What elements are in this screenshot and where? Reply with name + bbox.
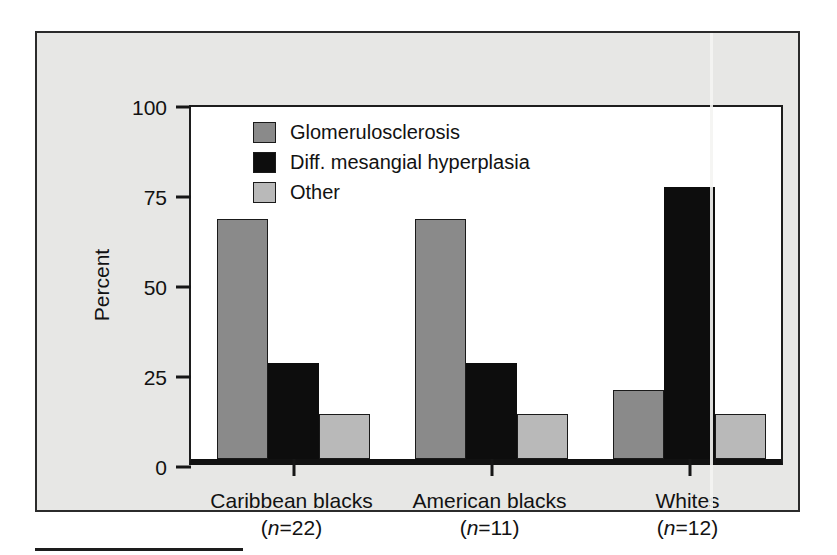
- y-axis-tick-mark: [176, 376, 191, 379]
- x-axis-tick-mark: [292, 459, 295, 476]
- bar: [517, 414, 568, 459]
- legend-item: Diff. mesangial hyperplasia: [253, 150, 530, 174]
- y-axis-title-label: Percent: [90, 249, 114, 321]
- y-axis-tick-mark: [176, 106, 191, 109]
- legend-label: Diff. mesangial hyperplasia: [290, 152, 530, 172]
- y-axis-tick: 25: [144, 367, 191, 388]
- legend-swatch: [253, 122, 276, 143]
- y-axis-tick-label: 75: [144, 187, 167, 208]
- bar: [664, 187, 715, 459]
- y-axis-tick: 50: [144, 277, 191, 298]
- bar: [319, 414, 370, 459]
- bar: [613, 390, 664, 459]
- y-axis-tick: 0: [155, 457, 191, 478]
- caption-rule: [35, 548, 243, 551]
- x-axis-group-name: Whites: [655, 489, 719, 512]
- legend-label: Glomerulosclerosis: [290, 122, 460, 142]
- legend-swatch: [253, 152, 276, 173]
- bar: [715, 414, 766, 459]
- figure-frame: Percent 0255075100 GlomerulosclerosisDif…: [35, 31, 800, 512]
- y-axis-tick: 75: [144, 187, 191, 208]
- chart-legend: GlomerulosclerosisDiff. mesangial hyperp…: [253, 120, 530, 210]
- y-axis-title: Percent: [89, 105, 115, 465]
- bar: [217, 219, 268, 459]
- x-axis-group-sample-size: (n=11): [412, 515, 566, 542]
- y-axis-tick-label: 0: [155, 457, 167, 478]
- plot-area: 0255075100 GlomerulosclerosisDiff. mesan…: [189, 105, 783, 465]
- bar: [415, 219, 466, 459]
- y-axis-tick-mark: [176, 196, 191, 199]
- legend-swatch: [253, 182, 276, 203]
- y-axis-tick-mark: [176, 286, 191, 289]
- x-axis-group-label: Whites(n=12): [655, 488, 719, 542]
- bar: [268, 363, 319, 459]
- x-axis-group-label: American blacks(n=11): [412, 488, 566, 542]
- x-axis-group-sample-size: (n=22): [210, 515, 372, 542]
- x-axis-group-name: Caribbean blacks: [210, 489, 372, 512]
- y-axis-tick-mark: [176, 466, 191, 469]
- legend-label: Other: [290, 182, 340, 202]
- x-axis-group-name: American blacks: [412, 489, 566, 512]
- x-axis-group-label: Caribbean blacks(n=22): [210, 488, 372, 542]
- legend-item: Other: [253, 180, 530, 204]
- x-axis-tick-mark: [688, 459, 691, 476]
- y-axis-tick-label: 50: [144, 277, 167, 298]
- y-axis-tick: 100: [132, 97, 191, 118]
- x-axis-group-sample-size: (n=12): [655, 515, 719, 542]
- y-axis-tick-label: 100: [132, 97, 167, 118]
- x-axis-tick-mark: [490, 459, 493, 476]
- bar: [466, 363, 517, 459]
- y-axis-tick-label: 25: [144, 367, 167, 388]
- legend-item: Glomerulosclerosis: [253, 120, 530, 144]
